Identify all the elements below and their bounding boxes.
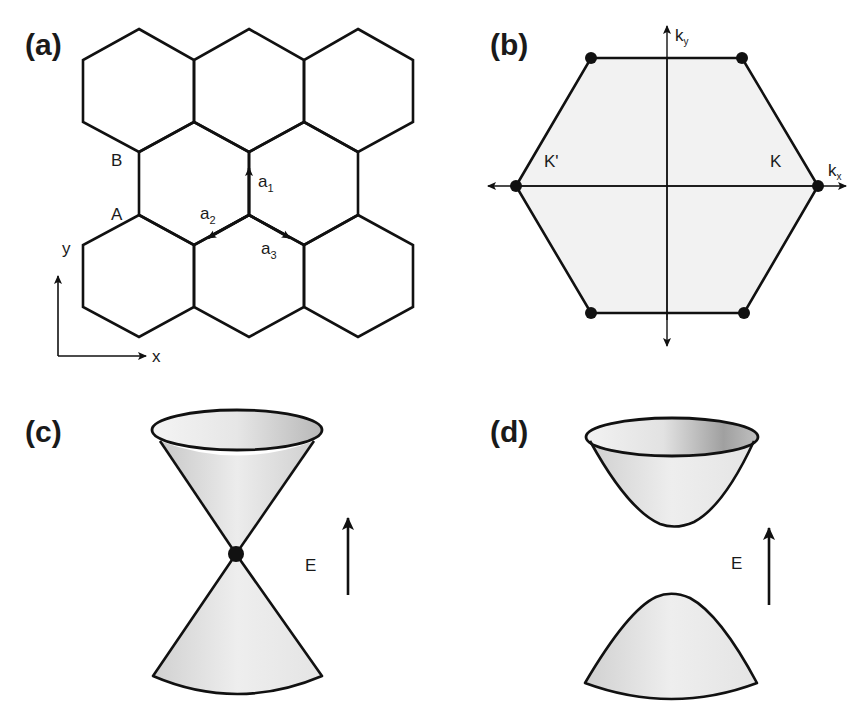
k-point [812, 180, 824, 192]
k-label: K [770, 152, 782, 171]
brillouin-zone [488, 26, 846, 346]
vector-a2-label: a2 [200, 204, 216, 226]
dirac-point [585, 52, 597, 64]
dirac-point [585, 307, 597, 319]
k-prime-label: K' [544, 152, 559, 171]
energy-label-d: E [731, 554, 742, 573]
dirac-point-c [228, 546, 244, 562]
lattice-vectors [208, 168, 290, 238]
dirac-point [738, 307, 750, 319]
y-axis-label: y [62, 239, 71, 258]
dirac-point [736, 52, 748, 64]
vector-a1-label: a1 [258, 172, 274, 194]
figure-canvas: B A a1 a2 a3 y x K' K kx ky [0, 0, 866, 719]
dirac-cones [152, 410, 322, 694]
energy-label-c: E [305, 556, 316, 575]
x-axis-label: x [152, 347, 161, 366]
k-prime-point [510, 180, 522, 192]
vector-a3-arrow [249, 215, 290, 238]
ky-label: ky [675, 26, 689, 47]
upper-band-rim [586, 418, 758, 456]
kx-label: kx [828, 161, 842, 182]
lower-band [585, 594, 757, 699]
sublattice-label-b: B [111, 151, 122, 170]
lower-cone [153, 554, 322, 694]
sublattice-label-a: A [111, 205, 123, 224]
upper-cone-rim [152, 410, 322, 450]
vector-a3-label: a3 [261, 239, 277, 261]
